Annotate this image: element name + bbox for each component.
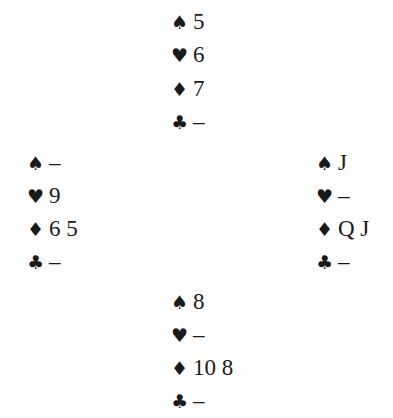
- diamond-icon: ♦: [171, 353, 193, 383]
- club-icon: ♣: [171, 107, 193, 137]
- east-diamonds-row: ♦Q J: [316, 214, 369, 244]
- heart-icon: ♥: [171, 320, 193, 350]
- west-clubs-row: ♣–: [27, 247, 61, 277]
- west-diamonds-row: ♦6 5: [27, 214, 78, 244]
- heart-icon: ♥: [316, 181, 338, 211]
- spade-icon: ♠: [316, 148, 338, 178]
- spade-icon: ♠: [171, 7, 193, 37]
- diamond-icon: ♦: [316, 214, 338, 244]
- spade-icon: ♠: [27, 148, 49, 178]
- north-clubs-row: ♣–: [171, 107, 205, 137]
- spade-icon: ♠: [171, 287, 193, 317]
- heart-icon: ♥: [171, 40, 193, 70]
- diamond-icon: ♦: [27, 214, 49, 244]
- east-clubs-row: ♣–: [316, 247, 350, 277]
- west-hearts-row: ♥9: [27, 181, 61, 211]
- club-icon: ♣: [171, 386, 193, 416]
- south-diamonds-row: ♦10 8: [171, 353, 233, 383]
- club-icon: ♣: [27, 247, 49, 277]
- south-spades-row: ♠8: [171, 287, 205, 317]
- north-hearts-row: ♥6: [171, 40, 205, 70]
- north-spades-row: ♠5: [171, 7, 205, 37]
- east-spades-row: ♠J: [316, 148, 347, 178]
- club-icon: ♣: [316, 247, 338, 277]
- south-hearts-row: ♥–: [171, 320, 205, 350]
- heart-icon: ♥: [27, 181, 49, 211]
- diamond-icon: ♦: [171, 74, 193, 104]
- north-diamonds-row: ♦7: [171, 74, 205, 104]
- east-hearts-row: ♥–: [316, 181, 350, 211]
- south-clubs-row: ♣–: [171, 386, 205, 416]
- west-spades-row: ♠–: [27, 148, 61, 178]
